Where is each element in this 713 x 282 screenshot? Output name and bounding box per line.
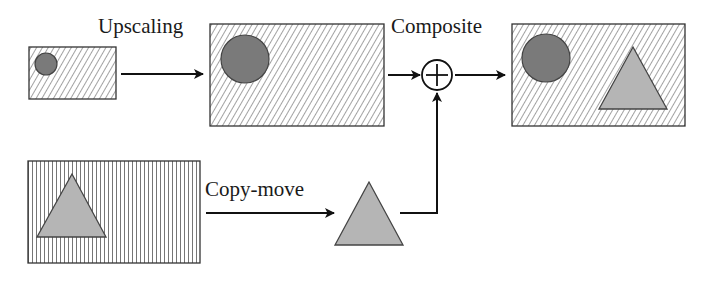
source-image — [28, 161, 200, 263]
small-image — [29, 47, 116, 99]
copy-move-label: Copy-move — [205, 177, 304, 201]
upscaling-label: Upscaling — [98, 14, 184, 38]
triangle-to-composite-arrow — [400, 93, 437, 213]
upscaled-image — [210, 24, 384, 126]
circle-object — [522, 34, 570, 82]
circle-object — [35, 53, 57, 75]
composite-operator — [422, 60, 452, 90]
composite-result — [512, 24, 685, 126]
forgery-pipeline-diagram: Upscaling Composite Copy-move — [0, 0, 713, 282]
copied-triangle — [335, 182, 403, 245]
circle-object — [221, 35, 269, 83]
composite-label: Composite — [391, 14, 482, 38]
